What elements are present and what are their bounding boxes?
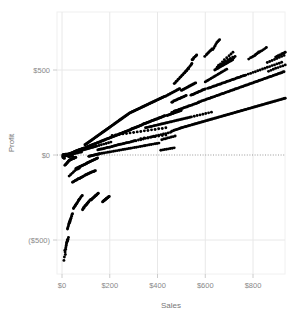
data-point xyxy=(161,127,164,130)
data-point xyxy=(225,56,228,59)
data-point xyxy=(267,70,270,73)
data-point xyxy=(275,55,278,58)
x-axis-title: Sales xyxy=(161,301,181,310)
data-point xyxy=(231,51,234,54)
data-point xyxy=(184,71,187,74)
data-point xyxy=(100,148,103,151)
data-point xyxy=(64,253,67,256)
data-point xyxy=(203,55,206,58)
data-point xyxy=(65,244,68,247)
data-point xyxy=(207,111,210,114)
data-point xyxy=(64,250,67,253)
data-point xyxy=(118,133,121,136)
data-point xyxy=(257,51,260,54)
data-point xyxy=(208,78,211,81)
data-point xyxy=(109,141,112,144)
plot-svg: $0$200$400$600$800$500$0($500) Sales Pro… xyxy=(0,0,294,316)
data-point xyxy=(143,129,146,132)
data-point xyxy=(150,128,153,131)
data-point xyxy=(194,81,197,84)
data-point xyxy=(210,47,213,50)
data-point xyxy=(66,240,69,243)
data-point xyxy=(129,131,132,134)
data-point xyxy=(96,157,99,160)
data-point xyxy=(111,134,114,137)
data-point xyxy=(187,67,190,70)
data-point xyxy=(151,125,154,128)
data-point xyxy=(132,131,135,134)
data-point xyxy=(66,228,69,231)
data-point xyxy=(74,156,77,159)
data-point xyxy=(173,146,176,149)
data-point xyxy=(220,71,223,74)
data-point xyxy=(284,63,287,66)
data-point xyxy=(201,113,204,116)
data-point xyxy=(77,199,80,202)
data-point xyxy=(121,132,124,135)
data-point xyxy=(98,148,101,151)
data-point xyxy=(217,64,220,67)
x-tick-label: $600 xyxy=(197,281,214,290)
data-point xyxy=(186,116,189,119)
data-point xyxy=(185,94,188,97)
data-point xyxy=(67,236,70,239)
data-point xyxy=(283,70,286,73)
data-point xyxy=(154,128,157,131)
data-point xyxy=(62,259,65,262)
data-point xyxy=(63,157,66,160)
data-point xyxy=(126,141,129,144)
data-point xyxy=(234,55,237,58)
data-point xyxy=(191,58,194,61)
data-point xyxy=(148,125,151,128)
data-point xyxy=(204,112,207,115)
data-point xyxy=(119,143,122,146)
data-point xyxy=(157,142,160,145)
y-tick-label: $0 xyxy=(42,151,50,160)
data-point xyxy=(163,122,166,125)
data-point xyxy=(94,169,97,172)
data-point xyxy=(114,133,117,136)
data-point xyxy=(196,114,199,117)
data-point xyxy=(214,43,217,46)
data-point xyxy=(63,256,66,259)
data-point xyxy=(222,69,225,72)
data-point xyxy=(160,123,163,126)
data-point xyxy=(97,192,100,195)
data-point xyxy=(70,216,73,219)
data-point xyxy=(169,131,172,134)
data-point xyxy=(284,97,287,100)
plot-area-border xyxy=(57,12,285,274)
data-point xyxy=(78,167,81,170)
data-point xyxy=(199,113,202,116)
data-point xyxy=(195,54,198,57)
data-point xyxy=(68,175,71,178)
data-point xyxy=(81,194,84,197)
data-point xyxy=(205,80,208,83)
data-point xyxy=(136,130,139,133)
data-point xyxy=(266,61,269,64)
data-point xyxy=(107,196,110,199)
data-point xyxy=(117,143,120,146)
data-point xyxy=(190,115,193,118)
data-point xyxy=(171,120,174,123)
data-point xyxy=(125,132,128,135)
data-point xyxy=(81,208,84,211)
y-tick-label: ($500) xyxy=(28,236,50,245)
data-point xyxy=(157,127,160,130)
data-point xyxy=(190,62,193,65)
data-point xyxy=(253,54,256,57)
data-point xyxy=(74,204,77,207)
data-point xyxy=(217,73,220,76)
data-point xyxy=(154,124,157,127)
data-point xyxy=(261,49,264,52)
y-axis-title: Profit xyxy=(7,133,16,152)
data-point xyxy=(146,126,149,129)
data-point xyxy=(86,202,89,205)
data-point xyxy=(278,54,281,57)
data-point xyxy=(168,121,171,124)
data-point xyxy=(174,135,177,138)
data-point xyxy=(174,119,177,122)
x-tick-label: $0 xyxy=(58,281,66,290)
data-point xyxy=(265,46,268,49)
data-point xyxy=(80,150,83,153)
